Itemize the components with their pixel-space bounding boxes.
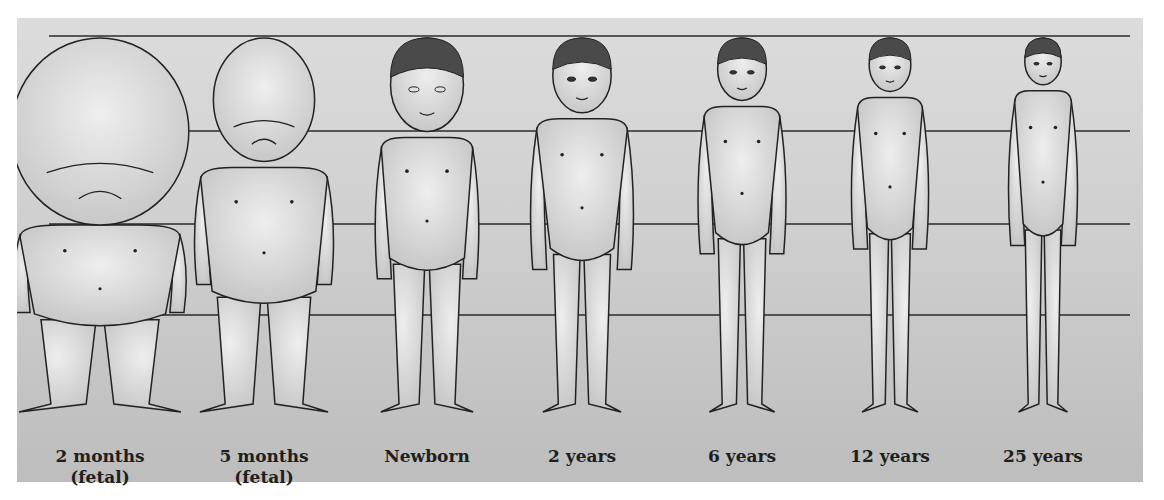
nipple-mark — [902, 132, 906, 136]
eye-mark — [747, 71, 754, 74]
figure-newborn — [375, 38, 479, 412]
label-line1: 2 months — [40, 446, 160, 467]
navel-mark — [98, 287, 101, 290]
leg-shape — [744, 239, 775, 412]
leg-shape — [891, 234, 918, 412]
nipple-mark — [405, 169, 409, 173]
nipple-mark — [234, 200, 238, 204]
nipple-mark — [445, 169, 449, 173]
eye-mark — [588, 77, 596, 81]
proportions-illustration — [17, 18, 1143, 482]
leg-shape — [584, 254, 621, 412]
eye-mark — [567, 77, 575, 81]
label-2-years: 2 years — [522, 446, 642, 467]
navel-mark — [740, 192, 743, 195]
label-2-months: 2 months (fetal) — [40, 446, 160, 488]
nipple-mark — [63, 249, 67, 253]
leg-shape — [104, 320, 181, 412]
navel-mark — [1041, 180, 1044, 183]
leg-shape — [862, 234, 889, 412]
nipple-mark — [290, 200, 294, 204]
head-shape — [17, 38, 189, 225]
eye-mark — [730, 71, 737, 74]
label-line2: (fetal) — [40, 467, 160, 488]
figure-12-years — [851, 38, 928, 412]
label-line1: 12 years — [830, 446, 950, 467]
navel-mark — [425, 219, 428, 222]
leg-shape — [709, 239, 740, 412]
torso-shape — [1015, 91, 1072, 236]
figure-5-months — [194, 38, 333, 412]
navel-mark — [888, 185, 891, 188]
figure-25-years — [1008, 38, 1077, 412]
navel-mark — [262, 251, 265, 254]
torso-shape — [537, 119, 627, 261]
head-shape — [213, 38, 314, 161]
figure-6-years — [698, 38, 786, 412]
label-12-years: 12 years — [830, 446, 950, 467]
leg-shape — [19, 320, 96, 412]
torso-shape — [381, 138, 472, 271]
nipple-mark — [724, 140, 728, 144]
figure-2-months — [17, 38, 189, 412]
nipple-mark — [1029, 126, 1033, 130]
nipple-mark — [757, 140, 761, 144]
eye-mark — [895, 66, 901, 69]
nipple-mark — [600, 153, 604, 157]
nipple-mark — [133, 249, 137, 253]
label-6-years: 6 years — [682, 446, 802, 467]
leg-shape — [1044, 230, 1067, 412]
torso-shape — [858, 97, 923, 239]
label-5-months: 5 months (fetal) — [204, 446, 324, 488]
nipple-mark — [560, 153, 564, 157]
nipple-mark — [874, 132, 878, 136]
leg-shape — [543, 254, 580, 412]
eye-mark — [1047, 62, 1052, 65]
label-line1: 25 years — [983, 446, 1103, 467]
torso-shape — [201, 167, 328, 303]
leg-shape — [381, 264, 425, 412]
label-line1: 2 years — [522, 446, 642, 467]
label-newborn: Newborn — [367, 446, 487, 467]
label-line1: 6 years — [682, 446, 802, 467]
torso-shape — [704, 106, 780, 244]
diagram-panel: 2 months (fetal) 5 months (fetal) Newbor… — [17, 18, 1143, 482]
figure-2-years — [531, 38, 634, 412]
label-line1: 5 months — [204, 446, 324, 467]
label-line2: (fetal) — [204, 467, 324, 488]
eye-mark — [1034, 62, 1039, 65]
navel-mark — [580, 206, 583, 209]
leg-shape — [429, 264, 473, 412]
leg-shape — [1019, 230, 1042, 412]
label-25-years: 25 years — [983, 446, 1103, 467]
nipple-mark — [1054, 126, 1058, 130]
eye-mark — [880, 66, 886, 69]
torso-shape — [20, 225, 180, 326]
label-line1: Newborn — [367, 446, 487, 467]
